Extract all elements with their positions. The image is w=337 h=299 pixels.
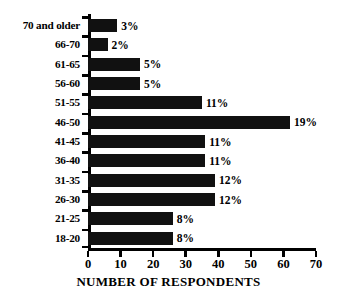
y-axis-label-66-70: 66-70 bbox=[0, 35, 84, 54]
x-axis-tick-label-20: 20 bbox=[147, 257, 160, 272]
bar-row[interactable]: 19% bbox=[88, 113, 316, 132]
x-axis-tick-labels: 010203040506070 bbox=[88, 257, 316, 273]
bar-value-label: 11% bbox=[209, 152, 231, 170]
x-axis-tick-label-50: 50 bbox=[245, 257, 258, 272]
y-axis-label-31-35: 31-35 bbox=[0, 171, 84, 190]
bar-value-label: 11% bbox=[206, 94, 228, 112]
y-axis-label-21-25: 21-25 bbox=[0, 209, 84, 228]
bar-series: 3%2%5%5%11%19%11%11%12%12%8%8% bbox=[88, 16, 316, 248]
bar-value-label: 3% bbox=[121, 17, 138, 35]
bar-66-70[interactable] bbox=[88, 38, 108, 51]
bar-51-55[interactable] bbox=[88, 96, 202, 109]
bar-26-30[interactable] bbox=[88, 193, 215, 206]
x-axis-tick-label-40: 40 bbox=[212, 257, 225, 272]
bar-70-and-older[interactable] bbox=[88, 19, 117, 32]
bar-row[interactable]: 5% bbox=[88, 74, 316, 93]
bar-41-45[interactable] bbox=[88, 135, 205, 148]
bar-56-60[interactable] bbox=[88, 77, 140, 90]
bar-21-25[interactable] bbox=[88, 212, 173, 225]
bar-row[interactable]: 8% bbox=[88, 209, 316, 228]
bar-row[interactable]: 11% bbox=[88, 151, 316, 170]
bar-value-label: 12% bbox=[219, 191, 242, 209]
y-axis-label-36-40: 36-40 bbox=[0, 151, 84, 170]
y-axis-label-61-65: 61-65 bbox=[0, 55, 84, 74]
bar-row[interactable]: 3% bbox=[88, 16, 316, 35]
bar-value-label: 8% bbox=[177, 210, 194, 228]
bar-row[interactable]: 5% bbox=[88, 55, 316, 74]
y-axis-label-56-60: 56-60 bbox=[0, 74, 84, 93]
bar-row[interactable]: 12% bbox=[88, 171, 316, 190]
bar-46-50[interactable] bbox=[88, 116, 290, 129]
x-axis-tick-label-0: 0 bbox=[85, 257, 91, 272]
bar-36-40[interactable] bbox=[88, 154, 205, 167]
x-axis-title: NUMBER OF RESPONDENTS bbox=[0, 274, 337, 290]
y-axis-label-46-50: 46-50 bbox=[0, 113, 84, 132]
bar-chart: 70 and older 66-70 61-65 56-60 51-55 46-… bbox=[0, 0, 337, 299]
bar-31-35[interactable] bbox=[88, 174, 215, 187]
bar-row[interactable]: 2% bbox=[88, 35, 316, 54]
bar-value-label: 11% bbox=[209, 133, 231, 151]
bar-value-label: 12% bbox=[219, 171, 242, 189]
bar-value-label: 2% bbox=[112, 36, 129, 54]
y-axis-label-41-45: 41-45 bbox=[0, 132, 84, 151]
x-axis-tick-label-30: 30 bbox=[179, 257, 192, 272]
bar-18-20[interactable] bbox=[88, 232, 173, 245]
x-axis-tick-label-70: 70 bbox=[310, 257, 323, 272]
bar-value-label: 19% bbox=[294, 113, 317, 131]
y-axis-label-70-and-older: 70 and older bbox=[0, 16, 84, 35]
bar-61-65[interactable] bbox=[88, 58, 140, 71]
y-axis-category-labels: 70 and older 66-70 61-65 56-60 51-55 46-… bbox=[0, 16, 84, 248]
y-axis-label-51-55: 51-55 bbox=[0, 93, 84, 112]
y-axis-label-26-30: 26-30 bbox=[0, 190, 84, 209]
bar-value-label: 5% bbox=[144, 55, 161, 73]
x-axis-tick-label-60: 60 bbox=[277, 257, 290, 272]
bar-row[interactable]: 12% bbox=[88, 190, 316, 209]
bar-value-label: 8% bbox=[177, 229, 194, 247]
bar-row[interactable]: 11% bbox=[88, 93, 316, 112]
y-axis-label-18-20: 18-20 bbox=[0, 229, 84, 248]
bar-row[interactable]: 11% bbox=[88, 132, 316, 151]
bar-row[interactable]: 8% bbox=[88, 229, 316, 248]
bar-value-label: 5% bbox=[144, 75, 161, 93]
x-axis-tick-label-10: 10 bbox=[114, 257, 127, 272]
